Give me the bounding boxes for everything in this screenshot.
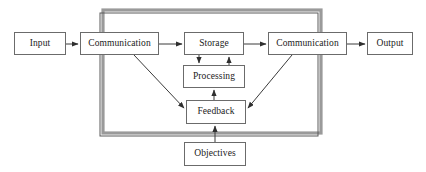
edge-communication-in-to-feedback bbox=[134, 55, 184, 108]
node-processing[interactable]: Processing bbox=[183, 65, 245, 88]
node-output-label: Output bbox=[377, 39, 404, 49]
diagram-canvas: Input Communication Storage Communicatio… bbox=[0, 0, 426, 172]
node-storage[interactable]: Storage bbox=[184, 32, 244, 55]
node-communication-in[interactable]: Communication bbox=[80, 32, 159, 55]
node-output[interactable]: Output bbox=[367, 32, 413, 55]
node-input-label: Input bbox=[30, 39, 51, 49]
node-feedback[interactable]: Feedback bbox=[186, 100, 246, 124]
node-feedback-label: Feedback bbox=[197, 107, 234, 117]
node-communication-in-label: Communication bbox=[88, 39, 151, 49]
node-objectives-label: Objectives bbox=[194, 149, 236, 159]
node-input[interactable]: Input bbox=[14, 32, 66, 55]
edge-communication-out-to-feedback bbox=[248, 55, 292, 108]
node-communication-out[interactable]: Communication bbox=[268, 32, 347, 55]
node-objectives[interactable]: Objectives bbox=[184, 142, 246, 166]
node-communication-out-label: Communication bbox=[276, 39, 339, 49]
node-processing-label: Processing bbox=[193, 72, 235, 82]
node-storage-label: Storage bbox=[199, 39, 229, 49]
